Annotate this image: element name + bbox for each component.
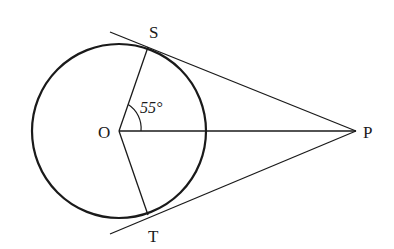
radius-os [119, 47, 148, 131]
label-o: O [98, 123, 110, 142]
angle-label: 55° [140, 99, 163, 116]
tangent-ps [110, 32, 356, 131]
radius-ot [119, 131, 148, 215]
label-p: P [363, 123, 372, 142]
label-t: T [148, 227, 159, 246]
geometry-diagram: S T O P 55° [0, 0, 394, 249]
label-s: S [149, 23, 158, 42]
tangent-pt [110, 131, 356, 234]
